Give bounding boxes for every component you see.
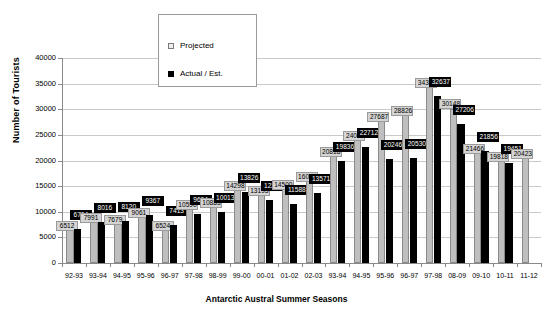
x-axis-tick-mark — [325, 263, 326, 267]
x-axis-tick-mark — [493, 263, 494, 267]
bar-group: 20423 — [517, 58, 541, 263]
bar-chart: Number of Tourists 050001000015000200002… — [0, 0, 553, 320]
y-axis-tick-label: 40000 — [10, 54, 56, 62]
bar-actual — [362, 147, 369, 263]
y-axis-tick-label: 30000 — [10, 105, 56, 113]
y-axis-tick-label: 35000 — [10, 80, 56, 88]
bar-actual — [481, 151, 488, 263]
x-axis-tick-mark — [421, 263, 422, 267]
data-label-projected: 28826 — [391, 106, 413, 116]
y-axis-tick-label: 15000 — [10, 182, 56, 190]
legend-item-actual: Actual / Est. — [168, 69, 223, 78]
bar-projected — [498, 161, 505, 263]
x-axis-tick-mark — [445, 263, 446, 267]
bar-projected — [282, 189, 289, 263]
bar-actual — [314, 193, 321, 263]
bar-actual — [434, 96, 441, 263]
bar-actual — [386, 159, 393, 263]
bar-group: 65126704 — [62, 58, 86, 263]
bar-actual — [410, 158, 417, 263]
bar-group: 2768720246 — [373, 58, 397, 263]
bar-group: 2081819836 — [325, 58, 349, 263]
bar-group: 1981819451 — [493, 58, 517, 263]
chart-legend: Projected Actual / Est. — [158, 14, 257, 87]
bar-actual — [505, 163, 512, 263]
y-axis-tick-label: 5000 — [10, 233, 56, 241]
bar-group: 1319312248 — [254, 58, 278, 263]
bar-projected — [522, 158, 529, 263]
y-axis-tick-label: 10000 — [10, 208, 56, 216]
bar-group: 1429813826 — [230, 58, 254, 263]
x-axis-tick-mark — [230, 263, 231, 267]
bar-projected — [450, 109, 457, 264]
bar-actual — [338, 161, 345, 263]
plot-area: 6512670479918016767981209061936765247413… — [62, 58, 541, 263]
y-axis-tick-label: 0 — [10, 259, 56, 267]
x-axis-tick-mark — [206, 263, 207, 267]
bar-group: 79918016 — [86, 58, 110, 263]
bar-actual — [194, 214, 201, 263]
data-label-projected: 27687 — [367, 112, 389, 122]
bar-group: 2882620530 — [397, 58, 421, 263]
bar-actual — [242, 192, 249, 263]
x-axis-title: Antarctic Austral Summer Seasons — [0, 294, 553, 304]
bar-actual — [122, 221, 129, 263]
bar-projected — [306, 181, 313, 263]
bar-projected — [90, 222, 97, 263]
x-axis-tick-mark — [469, 263, 470, 267]
bar-actual — [266, 200, 273, 263]
x-axis-tick-mark — [110, 263, 111, 267]
y-axis-tick-label: 25000 — [10, 131, 56, 139]
bar-group: 90619367 — [134, 58, 158, 263]
bar-actual — [98, 222, 105, 263]
bar-projected — [474, 153, 481, 263]
data-label-projected: 20423 — [511, 149, 533, 159]
actual-swatch-icon — [168, 71, 174, 77]
bar-projected — [426, 87, 433, 263]
x-axis-tick-mark — [278, 263, 279, 267]
bar-group: 2400022712 — [349, 58, 373, 263]
legend-label-projected: Projected — [180, 41, 214, 50]
x-axis-tick-mark — [62, 263, 63, 267]
x-axis-tick-mark — [158, 263, 159, 267]
x-axis-tick-mark — [397, 263, 398, 267]
bar-actual — [290, 204, 297, 263]
x-axis-tick-mark — [254, 263, 255, 267]
x-axis-tick-mark — [134, 263, 135, 267]
bar-projected — [162, 230, 169, 263]
x-axis-tick-mark — [517, 263, 518, 267]
x-axis-tick-mark — [182, 263, 183, 267]
bar-actual — [74, 229, 81, 263]
bar-group: 105909604 — [182, 58, 206, 263]
bar-group: 1600013571 — [302, 58, 326, 263]
bar-projected — [330, 156, 337, 263]
bar-projected — [186, 209, 193, 263]
x-axis-tick-label: 11-12 — [515, 272, 543, 280]
bar-group: 1450011588 — [278, 58, 302, 263]
x-axis-tick-mark — [302, 263, 303, 267]
bar-actual — [218, 212, 225, 263]
bar-group: 3014827206 — [445, 58, 469, 263]
y-axis-tick-label: 20000 — [10, 157, 56, 165]
bar-group: 1088310013 — [206, 58, 230, 263]
bar-group: 3435432637 — [421, 58, 445, 263]
legend-label-actual: Actual / Est. — [180, 69, 223, 78]
bar-projected — [234, 190, 241, 263]
bar-actual — [170, 225, 177, 263]
projected-swatch-icon — [168, 43, 174, 49]
bar-group: 65247413 — [158, 58, 182, 263]
bar-projected — [66, 230, 73, 263]
x-axis-tick-mark — [86, 263, 87, 267]
bar-projected — [210, 207, 217, 263]
bar-projected — [258, 195, 265, 263]
bar-projected — [402, 115, 409, 263]
bar-projected — [114, 224, 121, 263]
bar-projected — [138, 217, 145, 263]
bar-group: 76798120 — [110, 58, 134, 263]
x-axis-tick-mark — [349, 263, 350, 267]
legend-item-projected: Projected — [168, 41, 214, 50]
bar-projected — [354, 140, 361, 263]
x-axis-tick-mark — [541, 263, 542, 267]
x-axis-tick-mark — [373, 263, 374, 267]
